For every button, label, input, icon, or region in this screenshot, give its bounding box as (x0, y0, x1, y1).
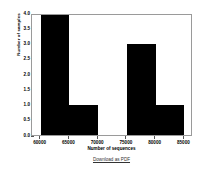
x-axis-label: Number of sequences (31, 146, 192, 151)
y-tick-label: 2.5 (24, 56, 30, 61)
histogram-bar (156, 105, 185, 136)
histogram-bar (127, 44, 156, 136)
y-tick-label: 1.0 (24, 102, 30, 107)
y-tick-label: 3.5 (24, 26, 30, 31)
histogram-bar (41, 14, 70, 135)
y-tick-label: 3.0 (24, 41, 30, 46)
histogram-figure: Number of samples 0.00.51.01.52.02.53.03… (0, 0, 210, 169)
plot-area (31, 14, 192, 136)
x-tick-label: 60000 (33, 140, 46, 145)
x-tick-label: 85000 (177, 140, 190, 145)
x-tick-label: 75000 (119, 140, 132, 145)
x-tick-label: 70000 (91, 140, 104, 145)
download-pdf-link[interactable]: Download as PDF (31, 157, 192, 162)
y-tick-label: 0.5 (24, 117, 30, 122)
bar-series (32, 15, 191, 135)
x-tick-label: 80000 (148, 140, 161, 145)
histogram-bar (69, 105, 98, 136)
y-tick-label: 1.5 (24, 87, 30, 92)
y-tick-label: 2.0 (24, 72, 30, 77)
x-tick-label: 65000 (62, 140, 75, 145)
y-axis-label: Number of samples (16, 0, 21, 81)
y-tick-label: 4.0 (24, 11, 30, 16)
y-tick-label: 0.0 (24, 133, 30, 138)
